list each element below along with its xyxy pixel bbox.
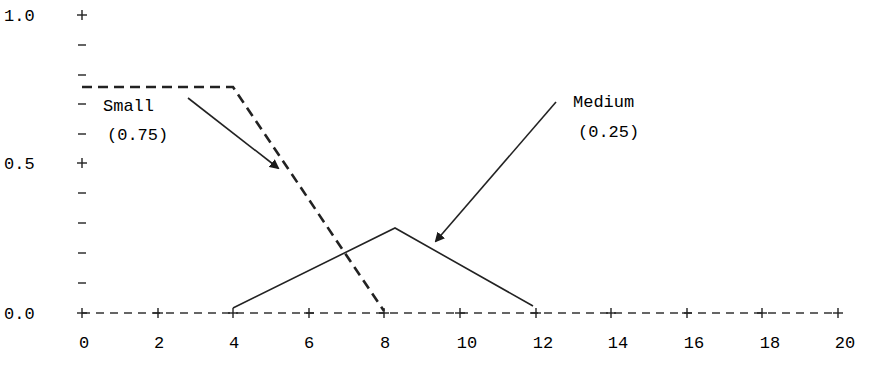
x-label: 20 bbox=[835, 334, 855, 353]
annotation-small-label: Small bbox=[103, 97, 154, 116]
fuzzy-membership-chart: 1.0 0.5 0.0 0 2 4 6 8 bbox=[0, 0, 869, 372]
y-label-1-0: 1.0 bbox=[4, 7, 35, 26]
annotation-small-value: (0.75) bbox=[107, 126, 168, 145]
x-label: 6 bbox=[304, 334, 314, 353]
annotation-medium-value: (0.25) bbox=[578, 123, 639, 142]
x-label: 16 bbox=[684, 334, 704, 353]
x-label: 14 bbox=[608, 334, 628, 353]
x-label: 0 bbox=[79, 334, 89, 353]
series-medium-line bbox=[233, 228, 533, 308]
x-label: 4 bbox=[229, 334, 239, 353]
y-axis-ticks bbox=[77, 10, 87, 283]
x-label: 10 bbox=[457, 334, 477, 353]
x-label: 12 bbox=[533, 334, 553, 353]
x-axis-labels: 0 2 4 6 8 10 12 14 16 18 20 bbox=[79, 334, 855, 353]
annotation-medium-label: Medium bbox=[573, 93, 634, 112]
x-label: 18 bbox=[760, 334, 780, 353]
series-small-line bbox=[82, 87, 384, 311]
arrow-small-icon bbox=[188, 98, 278, 168]
x-label: 2 bbox=[154, 334, 164, 353]
y-label-0-0: 0.0 bbox=[4, 305, 35, 324]
arrow-medium-icon bbox=[436, 102, 556, 241]
x-label: 8 bbox=[380, 334, 390, 353]
y-label-0-5: 0.5 bbox=[4, 155, 35, 174]
